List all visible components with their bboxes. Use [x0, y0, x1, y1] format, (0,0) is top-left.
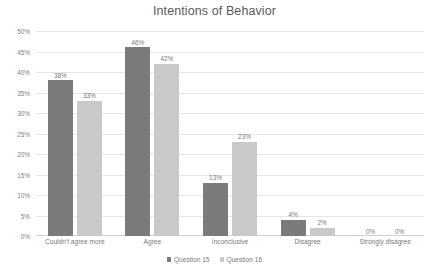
bar[interactable]: [281, 220, 306, 236]
bar-value-label: 0%: [366, 228, 375, 235]
chart-container: Intentions of Behavior 50%45%40%35%30%25…: [0, 0, 429, 273]
y-axis-tick-label: 40%: [17, 69, 30, 76]
bar-group: 38%33%: [36, 31, 114, 236]
y-axis-tick-label: 10%: [17, 192, 30, 199]
bar[interactable]: [154, 64, 179, 236]
y-axis-tick-label: 5%: [21, 212, 30, 219]
bar-slot: 13%: [203, 31, 228, 236]
legend-label: Question 15: [174, 256, 210, 263]
bar-slot: 0%: [387, 31, 412, 236]
y-axis: 50%45%40%35%30%25%20%15%10%5%0%: [0, 31, 33, 236]
bar-value-label: 2%: [317, 219, 326, 226]
bar[interactable]: [125, 47, 150, 236]
plot-area: 38%33%46%42%13%23%4%2%0%0%: [36, 31, 424, 236]
bar-slot: 23%: [232, 31, 257, 236]
bar-slot: 33%: [77, 31, 102, 236]
x-axis-tick-label: Inconclusive: [212, 238, 248, 245]
x-axis-tick-label: Strongly disagree: [360, 238, 411, 245]
bar[interactable]: [203, 183, 228, 236]
bar-slot: 38%: [48, 31, 73, 236]
bar-value-label: 46%: [131, 39, 144, 46]
bar-value-label: 23%: [238, 133, 251, 140]
x-axis-tick-label: Agree: [144, 238, 162, 245]
chart-legend: Question 15Question 16: [0, 256, 429, 263]
x-axis-tick-label: Couldn't agree more: [45, 238, 105, 245]
y-axis-tick-label: 15%: [17, 171, 30, 178]
legend-swatch-icon: [220, 257, 225, 262]
bar-value-label: 42%: [160, 55, 173, 62]
bar-slot: 0%: [358, 31, 383, 236]
chart-title: Intentions of Behavior: [0, 4, 429, 18]
bar-value-label: 33%: [83, 92, 96, 99]
bar[interactable]: [48, 80, 73, 236]
bar-group: 4%2%: [269, 31, 347, 236]
bar-value-label: 38%: [54, 72, 67, 79]
y-axis-tick-label: 50%: [17, 28, 30, 35]
y-axis-tick-label: 25%: [17, 130, 30, 137]
bar-group: 46%42%: [114, 31, 192, 236]
x-axis: Couldn't agree moreAgreeInconclusiveDisa…: [36, 238, 424, 252]
bar[interactable]: [310, 228, 335, 236]
bar-slot: 2%: [310, 31, 335, 236]
bar-slot: 42%: [154, 31, 179, 236]
bar[interactable]: [77, 101, 102, 236]
y-axis-tick-label: 0%: [21, 233, 30, 240]
y-axis-tick-label: 35%: [17, 89, 30, 96]
y-axis-tick-label: 20%: [17, 151, 30, 158]
bar-value-label: 13%: [209, 174, 222, 181]
bar-slot: 46%: [125, 31, 150, 236]
bar-group: 13%23%: [191, 31, 269, 236]
legend-item[interactable]: Question 15: [167, 256, 210, 263]
legend-item[interactable]: Question 16: [220, 256, 263, 263]
bar-group: 0%0%: [346, 31, 424, 236]
bar-value-label: 0%: [395, 228, 404, 235]
legend-swatch-icon: [167, 257, 172, 262]
y-axis-tick-label: 30%: [17, 110, 30, 117]
y-axis-tick-label: 45%: [17, 48, 30, 55]
bar-slot: 4%: [281, 31, 306, 236]
bar[interactable]: [232, 142, 257, 236]
bar-value-label: 4%: [288, 211, 297, 218]
x-axis-tick-label: Disagree: [294, 238, 320, 245]
legend-label: Question 16: [227, 256, 263, 263]
